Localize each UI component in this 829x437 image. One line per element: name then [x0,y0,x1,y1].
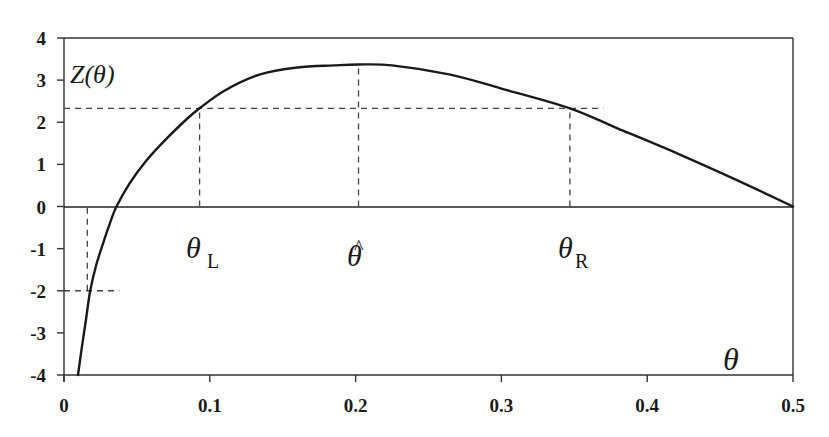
x-tick-label: 0 [59,395,69,416]
theta-L-symbol: θ [186,231,201,264]
chart: 43210-1-2-3-4 00.10.20.30.40.5 Z(θ) θ θ … [0,0,829,437]
y-tick-label: 2 [37,112,47,133]
theta-hat-accent: ^ [354,236,364,258]
y-tick-label: -4 [30,365,46,386]
y-tick-label: 0 [37,197,47,218]
y-tick-label: -2 [30,281,46,302]
theta-hat-label: θ ^ [347,236,364,272]
x-tick-label: 0.1 [198,395,222,416]
plot-frame [64,38,793,382]
y-axis-ticks: 43210-1-2-3-4 [30,28,64,386]
x-axis-ticks: 00.10.20.30.40.5 [59,375,805,416]
y-tick-label: -1 [30,239,46,260]
y-tick-label: 1 [37,154,47,175]
y-tick-label: -3 [30,323,46,344]
theta-R-label: θ R [558,231,589,272]
x-axis-title: θ [723,341,739,377]
x-tick-label: 0.4 [635,395,659,416]
y-tick-label: 3 [37,70,47,91]
z-theta-curve [78,64,793,375]
y-tick-label: 4 [37,28,47,49]
theta-L-subscript: L [207,250,219,272]
y-axis-title: Z(θ) [70,60,115,89]
x-tick-label: 0.2 [344,395,368,416]
x-tick-label: 0.3 [490,395,514,416]
x-tick-label: 0.5 [781,395,805,416]
theta-L-label: θ L [186,231,219,272]
theta-R-symbol: θ [558,231,573,264]
reference-lines [64,65,603,291]
theta-R-subscript: R [575,250,589,272]
